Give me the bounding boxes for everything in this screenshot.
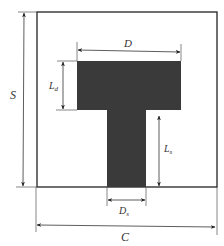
- dimension-ds: Ds: [107, 187, 146, 218]
- dimension-d: D: [77, 37, 181, 61]
- dimension-ls: Ls: [159, 116, 173, 186]
- dimension-s: S: [10, 12, 37, 187]
- label-ls: Ls: [163, 143, 173, 156]
- dimension-ld: Ld: [48, 61, 77, 110]
- label-d: D: [123, 37, 132, 49]
- label-c: C: [121, 230, 130, 244]
- t-patch: [77, 61, 181, 187]
- t-patch-diagram: S C D Ld Ls Ds: [0, 0, 224, 246]
- label-s: S: [10, 88, 16, 102]
- label-ds: Ds: [118, 205, 129, 218]
- label-ld: Ld: [48, 80, 59, 93]
